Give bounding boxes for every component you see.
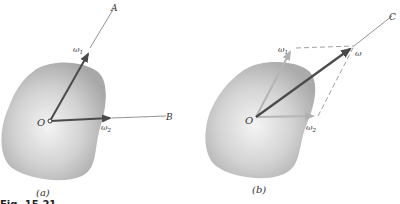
axis-label-a: A [110, 3, 118, 13]
omega-resultant-label: ω [355, 49, 362, 58]
rigid-body-b [205, 62, 315, 178]
omega-1-label-a: ω1 [73, 45, 83, 55]
axis-label-b: B [165, 112, 173, 122]
axis-line-c [354, 16, 392, 46]
figure-caption: Fig. 15.21 [0, 199, 56, 204]
omega-2-label-a: ω2 [101, 123, 112, 133]
axis-line-a [90, 8, 114, 48]
omega-2-vector-b [256, 116, 313, 117]
origin-point-a [48, 119, 52, 123]
omega-2-label-b: ω2 [306, 123, 317, 133]
axis-label-c: C [389, 12, 396, 22]
panel-a: O A B ω1 ω2 (a) [1, 3, 173, 198]
axis-line-b [112, 116, 166, 118]
parallelogram-right [318, 46, 354, 116]
panel-b: O C ω1 ω2 ω (b) [205, 12, 396, 195]
origin-label-a: O [37, 117, 45, 128]
diagram-canvas: O A B ω1 ω2 (a) O C ω1 ω2 ω (b) Fig. 15.… [0, 0, 400, 204]
omega-1-label-b: ω1 [278, 45, 288, 55]
panel-label-b: (b) [252, 184, 266, 195]
origin-label-b: O [245, 115, 253, 126]
parallelogram-top [296, 46, 354, 48]
panel-label-a: (a) [36, 187, 50, 198]
